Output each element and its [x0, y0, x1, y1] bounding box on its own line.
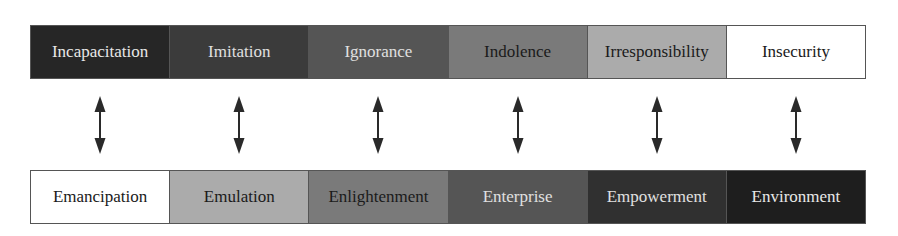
- double-arrow-icon: [30, 96, 169, 154]
- bottom-box-emancipation: Emancipation: [31, 171, 170, 223]
- bottom-box-emulation: Emulation: [170, 171, 309, 223]
- connector-row: [30, 96, 866, 154]
- bottom-box-enlightenment: Enlightenment: [309, 171, 448, 223]
- bottom-row: Emancipation Emulation Enlightenment Ent…: [30, 170, 866, 224]
- double-arrow-icon: [587, 96, 726, 154]
- bottom-box-environment: Environment: [727, 171, 865, 223]
- double-arrow-icon: [169, 96, 308, 154]
- top-box-indolence: Indolence: [449, 26, 588, 78]
- double-arrow-icon: [448, 96, 587, 154]
- double-arrow-icon: [727, 96, 866, 154]
- top-box-irresponsibility: Irresponsibility: [588, 26, 727, 78]
- double-arrow-icon: [309, 96, 448, 154]
- top-box-ignorance: Ignorance: [309, 26, 448, 78]
- top-box-imitation: Imitation: [170, 26, 309, 78]
- top-row: Incapacitation Imitation Ignorance Indol…: [30, 25, 866, 79]
- bottom-box-enterprise: Enterprise: [449, 171, 588, 223]
- top-box-insecurity: Insecurity: [727, 26, 865, 78]
- top-box-incapacitation: Incapacitation: [31, 26, 170, 78]
- bottom-box-empowerment: Empowerment: [588, 171, 727, 223]
